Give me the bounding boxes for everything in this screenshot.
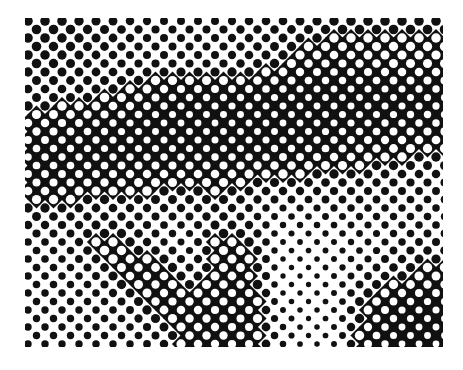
halftone-dot-field: [0, 0, 463, 370]
halftone-photo: [0, 0, 463, 370]
